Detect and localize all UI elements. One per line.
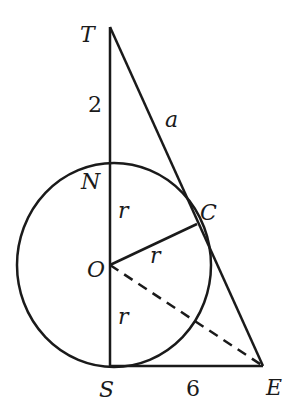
length-SE: 6 — [186, 376, 200, 401]
length-TN: 2 — [88, 92, 102, 117]
circle — [17, 163, 211, 367]
label-E: E — [265, 375, 282, 400]
label-O: O — [87, 257, 105, 282]
label-N: N — [80, 169, 101, 194]
label-S: S — [99, 377, 114, 402]
label-T: T — [80, 22, 97, 47]
label-C: C — [200, 200, 217, 225]
length-TE: a — [165, 107, 178, 132]
geometry-diagram: T N O S C E 2 a r r r 6 — [0, 0, 301, 416]
length-OC: r — [150, 243, 162, 268]
length-OS: r — [118, 304, 130, 329]
length-NO: r — [118, 198, 130, 223]
